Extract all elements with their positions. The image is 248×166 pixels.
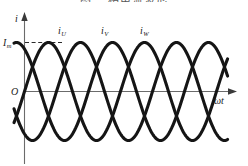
x-axis-arrowhead [228, 88, 237, 94]
y-axis-label: i [15, 13, 18, 24]
amplitude-label: Im [2, 37, 12, 49]
curve-label-iV: iV [101, 25, 109, 37]
waveform-plot: i O Im ωt iU iV iW [0, 0, 248, 166]
origin-label: O [11, 86, 18, 97]
x-axis-label: ωt [214, 95, 224, 106]
curve-label-iU: iU [58, 25, 67, 37]
curve-label-iW: iW [140, 25, 149, 37]
three-phase-current-waveform-figure: i O Im ωt iU iV iW [0, 0, 248, 166]
y-axis-arrowhead [21, 12, 27, 21]
